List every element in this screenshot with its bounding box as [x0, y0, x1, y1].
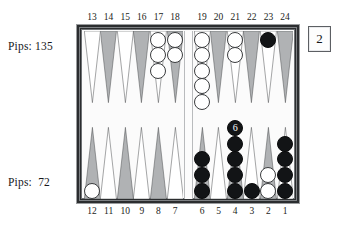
pips-count-bottom: Pips: 72	[8, 176, 50, 188]
checker-white-point-19[interactable]	[194, 32, 210, 48]
checker-black-point-4[interactable]	[227, 167, 243, 183]
checker-white-point-17[interactable]	[150, 63, 166, 79]
point-number-10: 10	[116, 206, 134, 216]
pips-count-top: Pips: 135	[8, 40, 53, 52]
point-15[interactable]	[117, 31, 134, 103]
point-16[interactable]	[133, 31, 150, 103]
point-11[interactable]	[100, 127, 117, 199]
checker-white-point-19[interactable]	[194, 47, 210, 63]
point-8[interactable]	[150, 127, 167, 199]
checker-black-point-4[interactable]	[227, 136, 243, 152]
point-number-22: 22	[243, 12, 261, 22]
point-number-17: 17	[149, 12, 167, 22]
checker-count-label-point-4: 6	[228, 121, 242, 135]
board-frame: 6	[77, 25, 299, 203]
point-number-19: 19	[193, 12, 211, 22]
point-number-24: 24	[276, 12, 294, 22]
checker-black-point-3[interactable]	[244, 183, 260, 199]
point-number-4: 4	[226, 206, 244, 216]
point-24[interactable]	[277, 31, 294, 103]
point-20[interactable]	[210, 31, 227, 103]
point-14[interactable]	[100, 31, 117, 103]
checker-white-point-19[interactable]	[194, 94, 210, 110]
checker-black-point-1[interactable]	[277, 167, 293, 183]
point-number-5: 5	[210, 206, 228, 216]
checker-black-point-4[interactable]: 6	[227, 120, 243, 136]
point-number-15: 15	[116, 12, 134, 22]
point-number-18: 18	[166, 12, 184, 22]
point-number-12: 12	[83, 206, 101, 216]
backgammon-diagram: Pips: 135 Pips: 72 2 1314151617181920212…	[0, 0, 344, 228]
checker-black-point-1[interactable]	[277, 136, 293, 152]
checker-black-point-6[interactable]	[194, 183, 210, 199]
point-number-2: 2	[259, 206, 277, 216]
checker-white-point-18[interactable]	[167, 47, 183, 63]
doubling-cube[interactable]: 2	[308, 26, 331, 52]
checker-white-point-2[interactable]	[260, 183, 276, 199]
checker-white-point-12[interactable]	[84, 183, 100, 199]
point-number-1: 1	[276, 206, 294, 216]
checker-white-point-18[interactable]	[167, 32, 183, 48]
checker-black-point-1[interactable]	[277, 183, 293, 199]
checker-white-point-17[interactable]	[150, 32, 166, 48]
point-7[interactable]	[167, 127, 184, 199]
point-number-9: 9	[133, 206, 151, 216]
point-number-21: 21	[226, 12, 244, 22]
point-number-16: 16	[133, 12, 151, 22]
checker-black-point-6[interactable]	[194, 167, 210, 183]
point-13[interactable]	[84, 31, 101, 103]
checker-black-point-4[interactable]	[227, 183, 243, 199]
board-playing-field: 6	[81, 29, 295, 199]
point-number-3: 3	[243, 206, 261, 216]
point-10[interactable]	[117, 127, 134, 199]
point-number-13: 13	[83, 12, 101, 22]
point-number-8: 8	[149, 206, 167, 216]
point-number-6: 6	[193, 206, 211, 216]
checker-black-point-23[interactable]	[260, 32, 276, 48]
point-number-23: 23	[259, 12, 277, 22]
board-half-left	[83, 31, 184, 199]
point-number-14: 14	[100, 12, 118, 22]
point-number-20: 20	[210, 12, 228, 22]
checker-white-point-21[interactable]	[227, 32, 243, 48]
checker-white-point-19[interactable]	[194, 63, 210, 79]
point-number-11: 11	[100, 206, 118, 216]
point-number-7: 7	[166, 206, 184, 216]
point-22[interactable]	[243, 31, 260, 103]
point-9[interactable]	[133, 127, 150, 199]
point-5[interactable]	[210, 127, 227, 199]
board-half-right: 6	[193, 31, 294, 199]
board-bar[interactable]	[184, 31, 193, 199]
